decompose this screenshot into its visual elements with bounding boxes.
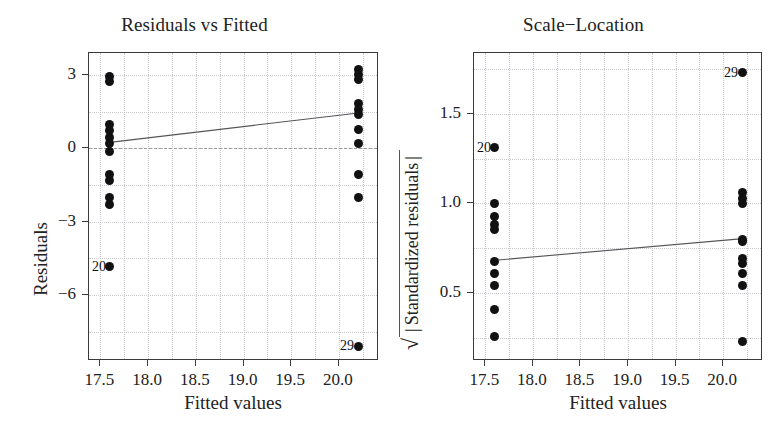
gridline-vertical — [628, 53, 629, 359]
gridline-vertical — [244, 53, 245, 359]
gridline-horizontal — [89, 332, 377, 333]
data-point — [490, 225, 499, 234]
gridline-vertical — [533, 53, 534, 359]
x-tick-mark — [675, 360, 676, 366]
x-tick-mark — [195, 360, 196, 366]
gridline-horizontal — [89, 112, 377, 113]
gridline-vertical — [172, 53, 173, 359]
gridline-vertical — [580, 53, 581, 359]
gridline-horizontal — [474, 248, 761, 249]
gridline-vertical — [509, 53, 510, 359]
x-tick-label: 19.0 — [612, 370, 642, 390]
x-tick-label: 18.5 — [565, 370, 595, 390]
x-tick-mark — [338, 360, 339, 366]
gridline-vertical — [747, 53, 748, 359]
data-point — [354, 139, 363, 148]
gridline-vertical — [557, 53, 558, 359]
gridline-horizontal — [474, 114, 761, 115]
y-tick-mark — [82, 147, 88, 148]
x-tick-label: 17.5 — [470, 370, 500, 390]
data-point — [490, 199, 499, 208]
data-point — [105, 200, 114, 209]
data-point — [490, 332, 499, 341]
x-tick-label: 20.0 — [323, 370, 353, 390]
data-point — [490, 305, 499, 314]
gridline-horizontal — [89, 258, 377, 259]
y-tick-mark — [82, 74, 88, 75]
x-axis-title-right: Fitted values — [569, 392, 667, 414]
x-tick-label: 17.5 — [85, 370, 115, 390]
data-point — [490, 269, 499, 278]
x-tick-label: 19.0 — [228, 370, 258, 390]
panel-scale-location: Scale−Location 2029 1.51.00.517.518.018.… — [389, 0, 778, 430]
gridline-vertical — [363, 53, 364, 359]
gridline-horizontal — [474, 159, 761, 160]
y-tick-label: 0.5 — [440, 282, 461, 302]
data-point — [354, 125, 363, 134]
panel-residuals-vs-fitted: Residuals vs Fitted 2029 30−3−617.518.01… — [0, 0, 389, 430]
plot-area-residuals-vs-fitted: 2029 — [88, 52, 378, 360]
x-tick-label: 20.0 — [707, 370, 737, 390]
x-tick-mark — [290, 360, 291, 366]
data-point — [738, 337, 747, 346]
y-tick-label: −6 — [58, 284, 76, 304]
y-axis-title-right: √ |Standardized residuals| — [399, 150, 423, 350]
data-point — [105, 262, 114, 271]
data-point — [490, 281, 499, 290]
trend-line — [89, 53, 377, 359]
gridline-vertical — [124, 53, 125, 359]
data-point — [354, 110, 363, 119]
x-tick-label: 19.5 — [275, 370, 305, 390]
x-tick-mark — [722, 360, 723, 366]
y-axis-title-left: Residuals — [30, 222, 52, 296]
gridline-vertical — [339, 53, 340, 359]
data-point — [354, 193, 363, 202]
data-point — [354, 170, 363, 179]
gridline-vertical — [220, 53, 221, 359]
y-tick-mark — [467, 113, 473, 114]
data-point — [738, 281, 747, 290]
gridline-vertical — [699, 53, 700, 359]
gridline-vertical — [148, 53, 149, 359]
gridline-vertical — [676, 53, 677, 359]
plot-area-scale-location: 2029 — [473, 52, 762, 360]
data-point — [105, 147, 114, 156]
gridline-horizontal — [89, 222, 377, 223]
data-point — [354, 75, 363, 84]
gridline-vertical — [604, 53, 605, 359]
x-tick-mark — [147, 360, 148, 366]
x-tick-label: 19.5 — [660, 370, 690, 390]
gridline-horizontal — [89, 185, 377, 186]
x-tick-mark — [484, 360, 485, 366]
abs-bar-right-icon: | — [402, 153, 423, 163]
gridline-vertical — [315, 53, 316, 359]
x-tick-mark — [243, 360, 244, 366]
gridline-horizontal — [474, 338, 761, 339]
data-point — [354, 342, 363, 351]
panel-title-residuals-vs-fitted: Residuals vs Fitted — [0, 14, 389, 36]
x-tick-mark — [579, 360, 580, 366]
gridline-vertical — [485, 53, 486, 359]
y-tick-mark — [467, 202, 473, 203]
x-axis-title-left: Fitted values — [184, 392, 282, 414]
data-point — [738, 199, 747, 208]
y-tick-mark — [467, 292, 473, 293]
x-tick-label: 18.5 — [180, 370, 210, 390]
abs-bar-left-icon: | — [402, 325, 423, 335]
data-point — [738, 68, 747, 77]
y-tick-label: 3 — [68, 64, 77, 84]
gridline-vertical — [100, 53, 101, 359]
gridline-horizontal — [474, 293, 761, 294]
y-tick-label: 0 — [68, 137, 77, 157]
y-axis-title-right-label: Standardized residuals — [402, 163, 422, 325]
gridline-vertical — [291, 53, 292, 359]
gridline-vertical — [652, 53, 653, 359]
trend-line — [474, 53, 761, 359]
outlier-label: 29 — [340, 339, 354, 353]
gridline-vertical — [267, 53, 268, 359]
gridline-vertical — [196, 53, 197, 359]
data-point — [105, 176, 114, 185]
gridline-horizontal — [474, 69, 761, 70]
outlier-label: 29 — [724, 66, 738, 80]
x-tick-mark — [532, 360, 533, 366]
